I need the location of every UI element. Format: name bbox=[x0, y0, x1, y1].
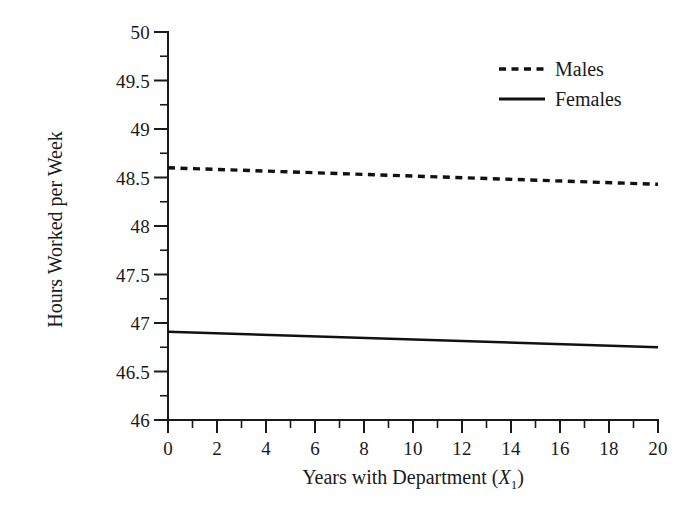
series-line-females bbox=[168, 332, 658, 348]
legend-item: Males bbox=[498, 54, 678, 84]
legend-item: Females bbox=[498, 84, 678, 114]
x-tick-label: 8 bbox=[339, 439, 389, 458]
y-axis-title: Hours Worked per Week bbox=[44, 75, 67, 385]
y-tick-label: 47 bbox=[80, 314, 150, 333]
x-tick-label: 12 bbox=[437, 439, 487, 458]
x-tick-label: 4 bbox=[241, 439, 291, 458]
x-tick-label: 6 bbox=[290, 439, 340, 458]
y-tick-label: 47.5 bbox=[80, 266, 150, 285]
x-axis-ticks bbox=[168, 420, 658, 433]
legend-label: Males bbox=[555, 59, 604, 79]
y-axis-ticks bbox=[154, 32, 168, 420]
y-tick-label: 49 bbox=[80, 120, 150, 139]
x-axis-title-prefix: Years with Department ( bbox=[302, 466, 498, 488]
y-tick-label: 48.5 bbox=[80, 169, 150, 188]
data-series-group bbox=[168, 168, 658, 347]
solid-line-icon bbox=[498, 92, 546, 106]
x-tick-label: 18 bbox=[584, 439, 634, 458]
chart-legend: MalesFemales bbox=[498, 54, 678, 114]
x-tick-label: 0 bbox=[143, 439, 193, 458]
y-tick-label: 50 bbox=[80, 23, 150, 42]
x-axis-title-suffix: ) bbox=[517, 466, 524, 488]
y-tick-label: 48 bbox=[80, 217, 150, 236]
y-tick-label: 46 bbox=[80, 411, 150, 430]
x-tick-label: 14 bbox=[486, 439, 536, 458]
legend-label: Females bbox=[555, 89, 622, 109]
x-tick-label: 20 bbox=[633, 439, 683, 458]
y-tick-label: 46.5 bbox=[80, 363, 150, 382]
x-tick-label: 10 bbox=[388, 439, 438, 458]
series-line-males bbox=[168, 168, 658, 184]
chart-figure: 4646.54747.54848.54949.550 0246810121416… bbox=[0, 0, 689, 527]
x-tick-label: 16 bbox=[535, 439, 585, 458]
x-tick-label: 2 bbox=[192, 439, 242, 458]
dashed-line-icon bbox=[498, 62, 546, 76]
x-axis-title-variable: X bbox=[498, 466, 510, 488]
y-tick-label: 49.5 bbox=[80, 72, 150, 91]
x-axis-title: Years with Department (X1) bbox=[168, 466, 658, 493]
